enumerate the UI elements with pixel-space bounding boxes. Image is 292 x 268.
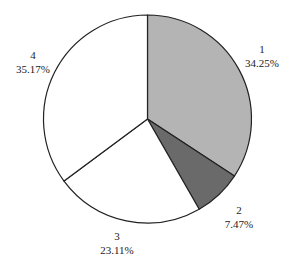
slice-name: 1 <box>245 42 279 56</box>
slice-name: 2 <box>225 203 253 217</box>
slice-label-3: 3 23.11% <box>100 229 134 257</box>
slice-percent: 23.11% <box>100 243 134 257</box>
slice-percent: 7.47% <box>225 217 253 231</box>
slice-name: 3 <box>100 229 134 243</box>
slice-percent: 35.17% <box>16 62 50 76</box>
slice-label-4: 4 35.17% <box>16 48 50 76</box>
slice-name: 4 <box>16 48 50 62</box>
slice-label-2: 2 7.47% <box>225 203 253 231</box>
slice-percent: 34.25% <box>245 56 279 70</box>
slice-label-1: 1 34.25% <box>245 42 279 70</box>
